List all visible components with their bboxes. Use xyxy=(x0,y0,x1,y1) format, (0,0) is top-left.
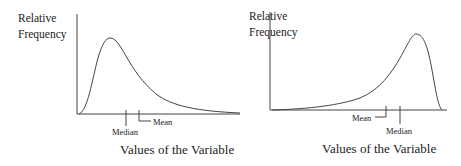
y-axis-label-line1: Relative xyxy=(249,11,287,23)
mean-tick xyxy=(139,110,151,121)
distribution-curve xyxy=(272,34,442,110)
mean-label: Mean xyxy=(153,118,172,127)
mean-tick xyxy=(375,106,386,117)
y-axis-label-line2: Frequency xyxy=(249,27,298,39)
mean-label: Mean xyxy=(352,114,371,123)
median-label: Median xyxy=(386,127,412,136)
y-axis-label-line1: Relative xyxy=(18,13,56,25)
right-skewed-diagram xyxy=(77,14,240,126)
x-axis-label: Values of the Variable xyxy=(120,143,234,156)
distribution-curve xyxy=(79,38,240,114)
median-label: Median xyxy=(112,128,138,137)
y-axis-label-line2: Frequency xyxy=(18,29,67,41)
x-axis-label: Values of the Variable xyxy=(322,142,436,155)
